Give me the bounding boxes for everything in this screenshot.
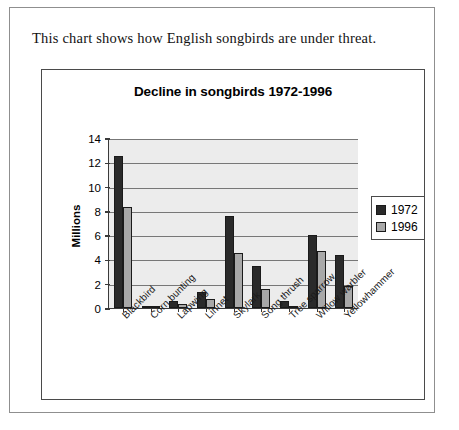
legend-item[interactable]: 1996 — [376, 218, 418, 235]
y-tick-label: 12 — [88, 157, 101, 169]
chart-title: Decline in songbirds 1972-1996 — [42, 84, 424, 99]
y-tick-label: 4 — [95, 254, 101, 266]
legend-label: 1996 — [391, 220, 418, 234]
bar-group — [192, 139, 220, 308]
y-tick-label: 8 — [95, 206, 101, 218]
bar-1972[interactable] — [114, 156, 123, 308]
legend-swatch — [376, 222, 386, 232]
bar-1996[interactable] — [234, 253, 243, 308]
y-tick-label: 0 — [95, 303, 101, 315]
y-tick-label: 10 — [88, 182, 101, 194]
chart-container: Decline in songbirds 1972-1996 Millions … — [41, 69, 425, 400]
bar-group — [247, 139, 275, 308]
y-tick-label: 6 — [95, 230, 101, 242]
y-tick-label: 14 — [88, 133, 101, 145]
bar-1996[interactable] — [123, 207, 132, 308]
legend-swatch — [376, 205, 386, 215]
document-page-frame: This chart shows how English songbirds a… — [9, 7, 435, 413]
bar-group — [109, 139, 137, 308]
bar-1972[interactable] — [225, 216, 234, 308]
bar-group — [137, 139, 165, 308]
legend-label: 1972 — [391, 203, 418, 217]
chart-legend: 19721996 — [371, 196, 425, 240]
bar-1972[interactable] — [142, 306, 151, 308]
y-tick-mark — [105, 308, 110, 310]
legend-item[interactable]: 1972 — [376, 201, 418, 218]
caption-text: This chart shows how English songbirds a… — [32, 30, 376, 47]
y-tick-label: 2 — [95, 279, 101, 291]
y-axis-title: Millions — [70, 186, 82, 266]
x-axis-labels: BlackbirdCorn buntingLapwingLinnetSkylar… — [108, 313, 358, 398]
bar-group — [220, 139, 248, 308]
